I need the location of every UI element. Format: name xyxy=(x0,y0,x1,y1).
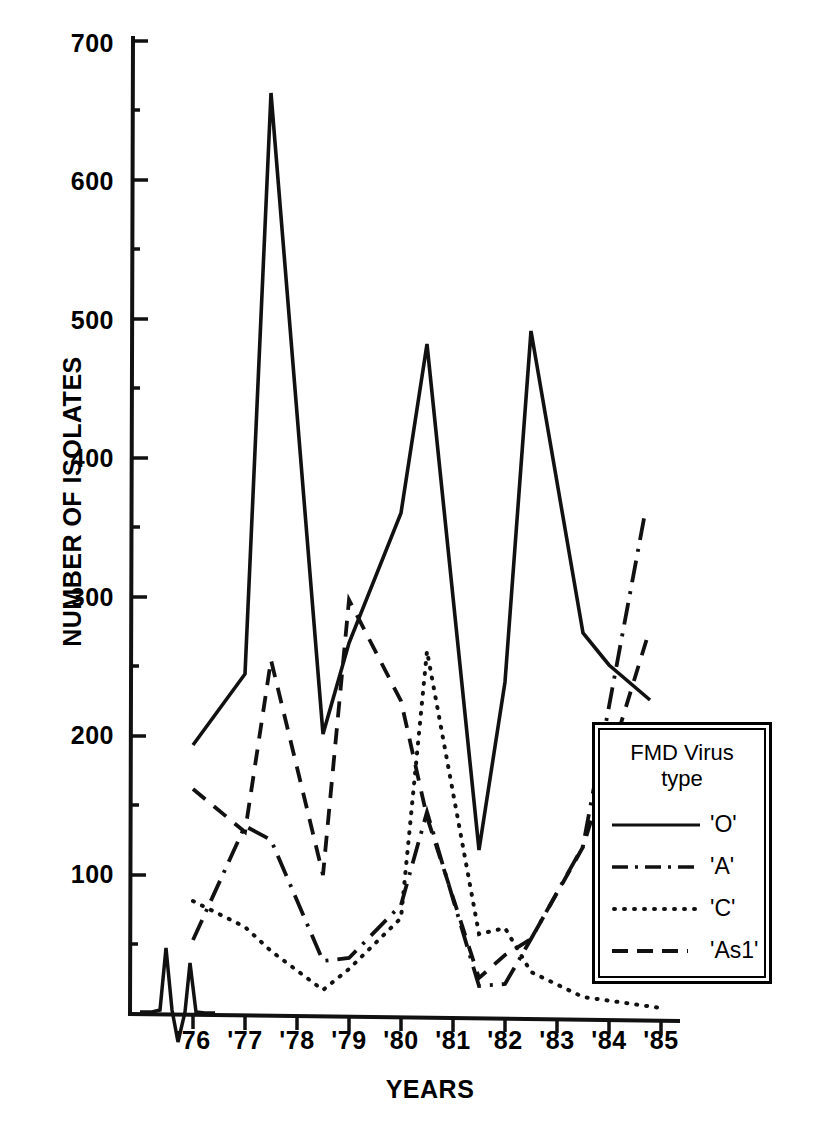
legend-inner-box: FMD Virus type 'O' 'A' 'C' xyxy=(598,728,766,978)
legend-item-As1[interactable]: 'As1' xyxy=(608,930,756,972)
series-line-O xyxy=(193,93,650,850)
legend-label-A: 'A' xyxy=(704,853,734,880)
series-line-A xyxy=(193,513,645,986)
baseline-artifact xyxy=(140,948,215,1042)
legend-title-line-2: type xyxy=(608,766,756,792)
legend-swatch-dashed-icon xyxy=(608,943,704,959)
legend-label-O: 'O' xyxy=(704,811,737,838)
legend-label-As1: 'As1' xyxy=(704,937,758,964)
legend-item-C[interactable]: 'C' xyxy=(608,888,756,930)
legend-title: FMD Virus type xyxy=(608,740,756,792)
legend-swatch-dotted-icon xyxy=(608,901,704,917)
legend-item-A[interactable]: 'A' xyxy=(608,846,756,888)
legend-label-C: 'C' xyxy=(704,895,735,922)
legend-swatch-dashdot-icon xyxy=(608,859,704,875)
chart-page: 700 600 500 400 300 200 100 '76 '77 '78 … xyxy=(0,0,813,1125)
legend-item-O[interactable]: 'O' xyxy=(608,804,756,846)
legend-box: FMD Virus type 'O' 'A' 'C' xyxy=(592,722,772,984)
legend-swatch-solid-icon xyxy=(608,817,704,833)
legend-title-line-1: FMD Virus xyxy=(608,740,756,766)
x-axis-line xyxy=(130,1014,678,1021)
series-group xyxy=(193,93,661,1008)
series-line-As1 xyxy=(193,600,648,978)
